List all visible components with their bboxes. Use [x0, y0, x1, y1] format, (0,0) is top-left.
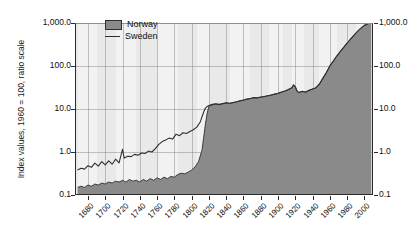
x-axis-tick-mark: [313, 196, 314, 200]
chart-container: Index values, 1960 = 100, ratio scale No…: [0, 0, 420, 244]
legend-label-sweden: Sweden: [125, 32, 158, 41]
chart-legend: Norway Sweden: [105, 19, 158, 43]
legend-swatch-icon: [105, 20, 122, 30]
y-axis-tick-label: 10.0: [379, 104, 396, 113]
x-axis-tick-mark: [123, 196, 124, 200]
x-axis-tick-mark: [174, 196, 175, 200]
legend-line-icon: [105, 36, 120, 37]
series-layer: [75, 23, 373, 195]
y-axis-title: Index values, 1960 = 100, ratio scale: [16, 14, 26, 204]
plot-area: [75, 23, 373, 195]
x-axis-tick-mark: [88, 196, 89, 200]
x-axis-tick-mark: [105, 196, 106, 200]
y-axis-tick-label: 0.1: [379, 190, 391, 199]
x-axis-tick-mark: [243, 196, 244, 200]
y-axis-tick-mark: [374, 23, 378, 24]
x-axis-tick-mark: [261, 196, 262, 200]
x-axis-tick-mark: [192, 196, 193, 200]
y-axis-tick-label: 1,000.0: [379, 18, 407, 27]
y-axis-tick-label: 100.0: [50, 61, 71, 70]
legend-item-norway: Norway: [105, 19, 158, 30]
y-axis-tick-mark: [71, 195, 75, 196]
y-axis-tick-mark: [71, 23, 75, 24]
x-axis-tick-mark: [364, 196, 365, 200]
x-axis-tick-mark: [330, 196, 331, 200]
x-axis-tick-mark: [347, 196, 348, 200]
y-axis-tick-mark: [374, 195, 378, 196]
x-axis-tick-mark: [209, 196, 210, 200]
y-axis-tick-mark: [71, 109, 75, 110]
y-axis-tick-mark: [71, 66, 75, 67]
y-axis-tick-label: 1.0: [379, 147, 391, 156]
x-axis-tick-mark: [278, 196, 279, 200]
legend-item-sweden: Sweden: [105, 31, 158, 42]
y-axis-tick-label: 10.0: [54, 104, 71, 113]
y-axis-tick-label: 1,000.0: [43, 18, 71, 27]
y-axis-tick-label: 1.0: [59, 147, 71, 156]
x-axis-tick-mark: [157, 196, 158, 200]
y-axis-tick-mark: [374, 109, 378, 110]
y-axis-tick-label: 0.1: [59, 190, 71, 199]
x-axis-tick-mark: [226, 196, 227, 200]
y-axis-tick-label: 100.0: [379, 61, 400, 70]
y-axis-tick-mark: [374, 66, 378, 67]
legend-label-norway: Norway: [127, 20, 158, 29]
y-axis-tick-mark: [71, 152, 75, 153]
y-axis-tick-mark: [374, 152, 378, 153]
x-axis-tick-mark: [140, 196, 141, 200]
norway-area: [78, 23, 372, 195]
x-axis-tick-mark: [295, 196, 296, 200]
